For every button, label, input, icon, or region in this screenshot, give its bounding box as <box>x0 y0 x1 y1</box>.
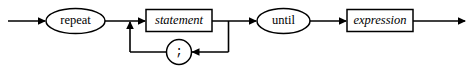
node-expression[interactable]: expression <box>347 10 413 32</box>
node-until[interactable]: until <box>257 9 310 34</box>
node-semicolon[interactable]: ; <box>167 40 192 65</box>
arrow-entry-icon <box>38 17 46 25</box>
arrow-loopback-up-icon <box>126 21 134 29</box>
arrow-until-in-icon <box>249 17 257 25</box>
node-semicolon-label: ; <box>175 45 182 59</box>
node-repeat[interactable]: repeat <box>46 9 105 34</box>
node-repeat-label: repeat <box>60 13 91 27</box>
node-statement[interactable]: statement <box>146 10 212 32</box>
node-statement-label: statement <box>155 13 203 27</box>
arrow-exit-icon <box>458 17 466 25</box>
railroad-diagram-canvas: repeat statement ; until expression <box>0 0 476 70</box>
arrow-expression-in-icon <box>339 17 347 25</box>
node-until-label: until <box>272 13 295 27</box>
railroad-diagram-svg: repeat statement ; until expression <box>0 0 476 70</box>
arrow-statement-in-icon <box>138 17 146 25</box>
arrow-semicolon-in-icon <box>192 48 200 56</box>
node-expression-label: expression <box>354 13 407 27</box>
